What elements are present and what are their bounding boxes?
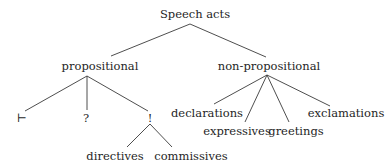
tree-nodes: Speech acts propositional non-propositio… [17, 7, 384, 163]
edge-propositional-assert [25, 76, 87, 111]
node-greetings: greetings [268, 124, 324, 138]
edge-root-propositional [111, 24, 190, 56]
edge-nonprop-greetings [267, 75, 289, 122]
node-question: ? [83, 111, 89, 125]
edge-command-directives [127, 124, 150, 147]
node-commissives: commissives [154, 149, 228, 163]
node-assert: ⊢ [17, 111, 27, 125]
speech-acts-tree: Speech acts propositional non-propositio… [0, 0, 389, 164]
node-declarations: declarations [171, 106, 243, 120]
node-propositional: propositional [62, 59, 139, 73]
edge-nonprop-declarations [214, 75, 267, 104]
edge-nonprop-exclamations [267, 75, 330, 106]
node-command: ! [148, 111, 153, 125]
edge-root-non-propositional [190, 24, 266, 57]
node-exclamations: exclamations [308, 106, 385, 120]
node-non-propositional: non-propositional [218, 59, 321, 73]
edge-nonprop-expressives [245, 75, 267, 122]
edge-propositional-command [87, 76, 148, 111]
edge-command-commissives [150, 124, 172, 147]
node-directives: directives [86, 149, 143, 163]
node-speech-acts: Speech acts [160, 7, 230, 21]
node-expressives: expressives [203, 124, 271, 138]
